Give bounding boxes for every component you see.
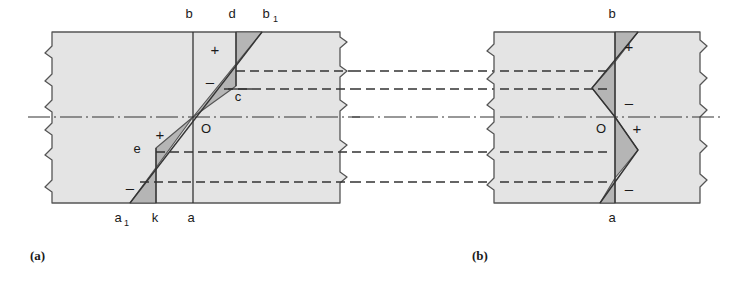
panel-b-sign-plus-lower: + bbox=[633, 120, 642, 137]
panel-a-label-a1: a bbox=[114, 210, 122, 225]
panel-a-label-o: O bbox=[201, 121, 211, 136]
panel-a-label-a1-subscript: 1 bbox=[124, 218, 129, 228]
panel-a-label-d: d bbox=[228, 6, 235, 21]
panel-a-sign-plus-upper: + bbox=[211, 41, 220, 58]
panel-a-label-k: k bbox=[152, 210, 159, 225]
panel-b-sign-minus-upper: – bbox=[625, 94, 634, 111]
panel-b-sign-minus-lower: – bbox=[625, 180, 634, 197]
panel-b-sign-plus-upper: + bbox=[625, 38, 634, 55]
panel-b-label-a: a bbox=[608, 210, 616, 225]
panel-a-sign-plus-lower: + bbox=[156, 126, 165, 143]
panel-a-caption: (a) bbox=[30, 248, 45, 263]
panel-a-label-b: b bbox=[185, 6, 192, 21]
panel-a-label-a: a bbox=[187, 210, 195, 225]
panel-a-label-c: c bbox=[235, 89, 242, 104]
inter-panel-connectors bbox=[352, 71, 500, 182]
panel-a-sign-minus-upper: – bbox=[206, 73, 215, 90]
panel-b-label-o: O bbox=[596, 121, 606, 136]
panel-a-sign-minus-lower: – bbox=[126, 179, 135, 196]
panel-a-label-b1: b bbox=[262, 6, 269, 21]
panel-a-label-b1-subscript: 1 bbox=[273, 14, 278, 24]
figure-root: b d b 1 a 1 k a c e O + – + – (a) bbox=[0, 0, 745, 281]
panel-b-caption: (b) bbox=[472, 248, 488, 263]
panel-b-label-b: b bbox=[608, 6, 615, 21]
panel-a-label-e: e bbox=[133, 141, 140, 156]
panel-b: b a O + – + – (b) bbox=[472, 6, 722, 263]
panel-a: b d b 1 a 1 k a c e O + – + – (a) bbox=[28, 6, 360, 263]
